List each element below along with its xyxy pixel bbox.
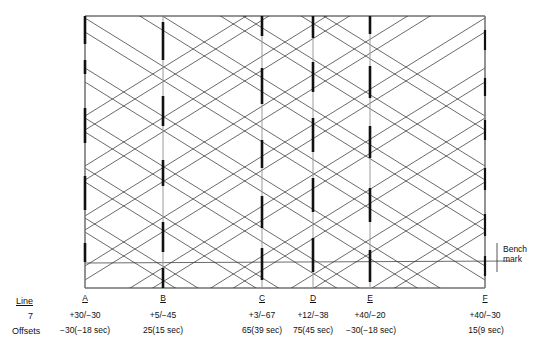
trajectory-bands	[85, 0, 485, 300]
seconds-value-a: −30(−18 sec)	[48, 325, 122, 335]
offset-value-b: +5/−45	[135, 310, 191, 320]
column-header-b: B	[151, 293, 175, 303]
bench-mark-line1: Bench	[503, 244, 527, 254]
offset-value-e: +40/−20	[342, 310, 398, 320]
diagram-frame	[85, 16, 485, 288]
offset-value-d: +12/−38	[285, 310, 341, 320]
figure-canvas: Bench mark A B C D E F Line 7 Offsets +3…	[0, 0, 533, 344]
offset-value-c: +3/−67	[234, 310, 290, 320]
column-header-a: A	[73, 293, 97, 303]
bench-mark-label: Bench mark	[503, 244, 527, 264]
row-label-line: Line	[16, 296, 33, 306]
time-space-diagram	[0, 0, 533, 300]
offset-value-f: +40/−30	[457, 310, 513, 320]
signal-columns	[85, 16, 485, 288]
row-label-offsets: Offsets	[12, 326, 40, 336]
seconds-value-b: 25(15 sec)	[131, 325, 195, 335]
seconds-value-e: −30(−18 sec)	[334, 325, 408, 335]
column-header-e: E	[358, 293, 382, 303]
column-header-f: F	[473, 293, 497, 303]
column-header-d: D	[301, 293, 325, 303]
bench-mark-line2: mark	[503, 254, 527, 264]
seconds-value-f: 15(9 sec)	[459, 325, 513, 335]
offset-value-a: +30/−30	[55, 310, 115, 320]
column-header-c: C	[250, 293, 274, 303]
row-label-line-number: 7	[28, 311, 33, 321]
